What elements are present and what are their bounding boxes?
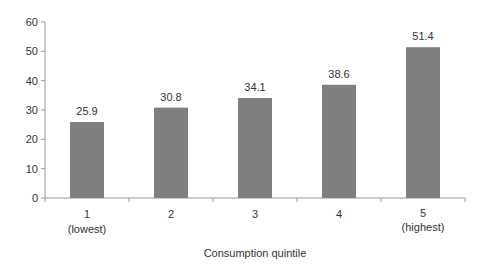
x-axis-title: Consumption quintile — [204, 247, 307, 259]
x-tick-label: 1 — [84, 208, 90, 220]
data-label: 38.6 — [328, 68, 349, 80]
y-tick-label: 50 — [26, 45, 38, 57]
y-tick-label: 0 — [32, 192, 38, 204]
x-tick-label: 3 — [252, 208, 258, 220]
y-tick-label: 20 — [26, 133, 38, 145]
bars: 25.930.834.138.651.4 — [70, 30, 440, 198]
data-label: 51.4 — [412, 30, 433, 42]
y-tick-label: 30 — [26, 104, 38, 116]
data-label: 30.8 — [160, 91, 181, 103]
data-label: 25.9 — [76, 105, 97, 117]
y-tick-label: 10 — [26, 163, 38, 175]
bar — [238, 98, 272, 198]
bar — [406, 47, 440, 198]
y-tick-label: 60 — [26, 16, 38, 28]
bar-chart: 0102030405060 1(lowest)2345(highest) 25.… — [0, 0, 487, 274]
x-tick-label: (lowest) — [68, 223, 107, 235]
data-label: 34.1 — [244, 81, 265, 93]
bar — [154, 108, 188, 198]
x-tick-label: 4 — [336, 208, 342, 220]
y-tick-label: 40 — [26, 75, 38, 87]
x-tick-label: 5 — [420, 207, 426, 219]
bar — [70, 122, 104, 198]
bar — [322, 85, 356, 198]
y-axis: 0102030405060 — [26, 16, 45, 204]
x-axis: 1(lowest)2345(highest) — [45, 198, 465, 235]
x-tick-label: 2 — [168, 208, 174, 220]
x-tick-label: (highest) — [402, 221, 445, 233]
